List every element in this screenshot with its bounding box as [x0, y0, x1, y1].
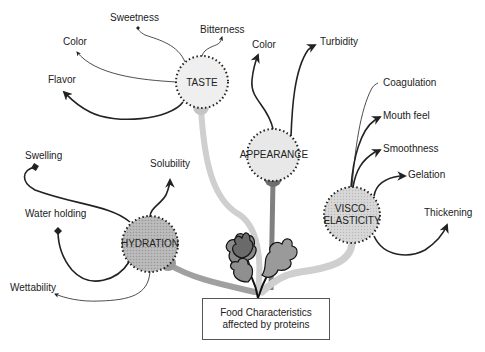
label-wettability: Wettability [10, 282, 56, 294]
label-coagulation: Coagulation [383, 77, 436, 89]
label-flavor: Flavor [48, 74, 76, 86]
label-turbidity: Turbidity [320, 36, 358, 48]
arrow-taste-flavor [64, 92, 183, 119]
node-visco-label-2: ELASTICITY [322, 215, 382, 227]
label-mouthfeel: Mouth feel [383, 110, 430, 122]
arrow-taste-bitterness [202, 37, 222, 56]
node-appearance-label: APPEARANCE [238, 149, 310, 161]
arrow-hydration-wettability [55, 272, 150, 301]
label-bitterness: Bitterness [200, 24, 244, 36]
node-visco-label-1: VISCO- [322, 203, 382, 215]
center-line-2: affected by proteins [203, 319, 329, 331]
label-solubility: Solubility [150, 158, 190, 170]
arrow-hydration-solubility [150, 180, 170, 217]
arrow-visco-gelation [374, 176, 405, 196]
label-swelling: Swelling [25, 150, 62, 162]
node-taste-label: TASTE [176, 77, 228, 89]
label-taste-color: Color [63, 36, 87, 48]
label-thickening: Thickening [424, 207, 472, 219]
arrow-taste-color [77, 52, 177, 82]
label-sweetness: Sweetness [110, 12, 159, 24]
center-box: Food Characteristics affected by protein… [202, 298, 330, 340]
stem-taste [201, 108, 259, 290]
arrow-taste-sweetness [138, 28, 185, 62]
arrow-visco-thickening [374, 225, 447, 255]
label-water-holding: Water holding [25, 208, 86, 220]
arrow-appearance-turbidity [291, 45, 315, 136]
label-gelation: Gelation [408, 169, 445, 181]
center-line-1: Food Characteristics [203, 307, 329, 319]
arrow-appearance-color [252, 55, 273, 129]
label-smoothness: Smoothness [383, 143, 439, 155]
arrow-visco-coagulation [352, 83, 378, 187]
node-hydration-label: HYDRATION [114, 238, 186, 250]
arrow-visco-smoothness [353, 150, 380, 187]
label-appearance-color: Color [252, 39, 276, 51]
